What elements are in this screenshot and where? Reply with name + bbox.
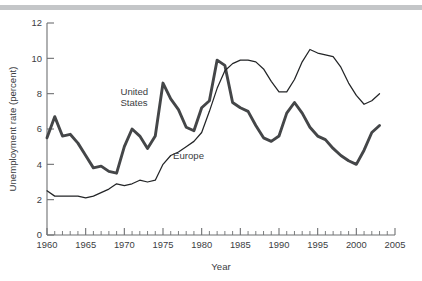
figure-root: 024681012 196019651970197519801985199019… [0, 0, 422, 281]
x-tick-label: 2005 [385, 239, 406, 250]
x-tick-label: 1995 [307, 239, 328, 250]
x-axis: 1960196519701975198019851990199520002005 [37, 228, 406, 250]
x-tick-label: 1980 [191, 239, 212, 250]
series-group [47, 50, 380, 198]
y-tick-label: 4 [37, 159, 42, 170]
unemployment-line-chart: 024681012 196019651970197519801985199019… [0, 0, 422, 281]
series-label-united-states: United [120, 86, 148, 97]
x-tick-group: 1960196519701975198019851990199520002005 [37, 228, 406, 250]
series-label-europe: Europe [173, 150, 204, 161]
y-tick-label: 2 [37, 194, 42, 205]
x-tick-label: 1975 [153, 239, 174, 250]
y-axis-title: Unemployment rate (percent) [7, 67, 18, 192]
series-line-united-states [47, 60, 380, 173]
x-tick-label: 2000 [346, 239, 367, 250]
series-label-united-states: States [120, 97, 147, 108]
y-tick-label: 12 [32, 17, 42, 28]
x-tick-label: 1985 [230, 239, 251, 250]
x-tick-label: 1965 [75, 239, 96, 250]
series-line-europe [47, 50, 380, 198]
x-tick-label: 1970 [114, 239, 135, 250]
y-tick-label: 8 [37, 88, 42, 99]
y-tick-label: 10 [32, 53, 42, 64]
x-tick-label: 1990 [269, 239, 290, 250]
x-tick-label: 1960 [37, 239, 58, 250]
y-tick-label: 6 [37, 123, 42, 134]
x-axis-title: Year [211, 261, 231, 272]
